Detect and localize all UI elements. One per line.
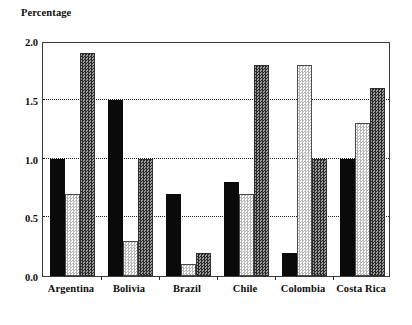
- x-tick-mark: [217, 276, 218, 280]
- bar: [239, 194, 254, 276]
- x-category-label: Costa Rica: [336, 283, 386, 294]
- bar: [340, 159, 355, 277]
- y-tick-label: 1.0: [4, 154, 38, 165]
- bar-group: [50, 43, 95, 276]
- gridline: [43, 158, 389, 159]
- x-tick-mark: [275, 276, 276, 280]
- bar: [297, 65, 312, 277]
- bar: [50, 159, 65, 277]
- bar-chart-figure: Percentage 0.00.51.01.52.0 ArgentinaBoli…: [0, 0, 412, 325]
- y-tick-label: 1.5: [4, 95, 38, 106]
- bar: [65, 194, 80, 276]
- gridline: [43, 99, 389, 100]
- bar: [108, 100, 123, 276]
- x-tick-mark: [101, 276, 102, 280]
- y-axis-labels: 0.00.51.01.52.0: [0, 42, 38, 277]
- bar-group: [108, 43, 153, 276]
- y-tick-label: 2.0: [4, 37, 38, 48]
- x-category-label: Chile: [233, 283, 257, 294]
- plot-area: [42, 42, 390, 277]
- bar-group: [340, 43, 385, 276]
- x-category-label: Argentina: [48, 283, 94, 294]
- bar: [123, 241, 138, 276]
- bar: [312, 159, 327, 277]
- bar-group: [282, 43, 327, 276]
- bar: [138, 159, 153, 277]
- x-category-label: Brazil: [173, 283, 201, 294]
- bar: [224, 182, 239, 276]
- chart-axis-title: Percentage: [21, 7, 71, 18]
- x-tick-mark: [333, 276, 334, 280]
- x-category-label: Bolivia: [113, 283, 145, 294]
- bar: [166, 194, 181, 276]
- y-tick-label: 0.0: [4, 272, 38, 283]
- bar: [196, 253, 211, 277]
- bar: [80, 53, 95, 276]
- bar: [254, 65, 269, 277]
- x-tick-mark: [159, 276, 160, 280]
- x-axis-labels: ArgentinaBoliviaBrazilChileColombiaCosta…: [42, 283, 390, 303]
- x-category-label: Colombia: [281, 283, 326, 294]
- bar: [370, 88, 385, 276]
- bar-group: [166, 43, 211, 276]
- gridline: [43, 216, 389, 217]
- bar-group: [224, 43, 269, 276]
- bar: [181, 264, 196, 276]
- bar: [282, 253, 297, 277]
- y-tick-label: 0.5: [4, 213, 38, 224]
- bar: [355, 123, 370, 276]
